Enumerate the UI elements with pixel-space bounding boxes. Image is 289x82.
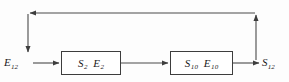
block-stage-2-right-subscript: 10 — [211, 63, 218, 71]
block-stage-1[interactable]: S2 E2 — [61, 51, 121, 75]
output-node-label: S12 — [262, 57, 275, 68]
block-stage-1-right-subscript: 2 — [101, 63, 105, 71]
block-stage-2-label: S10 E10 — [185, 58, 218, 69]
input-node-subscript: 12 — [11, 63, 18, 71]
block-stage-1-left-subscript: 2 — [84, 63, 88, 71]
block-stage-2-left-symbol: S — [185, 57, 191, 69]
output-node-symbol: S — [262, 56, 268, 68]
input-node-symbol: E — [4, 56, 11, 68]
output-node-subscript: 12 — [268, 63, 275, 71]
block-stage-1-label: S2 E2 — [78, 58, 104, 69]
block-stage-2-left-subscript: 10 — [191, 63, 198, 71]
block-stage-1-left-symbol: S — [78, 57, 84, 69]
block-stage-2-right-symbol: E — [204, 57, 211, 69]
block-flow-diagram: E12 S2 E2 S10 E10 S12 — [0, 0, 289, 82]
block-stage-2[interactable]: S10 E10 — [170, 51, 233, 75]
block-stage-1-right-symbol: E — [93, 57, 100, 69]
input-node-label: E12 — [4, 57, 18, 68]
diagram-canvas — [0, 0, 289, 82]
